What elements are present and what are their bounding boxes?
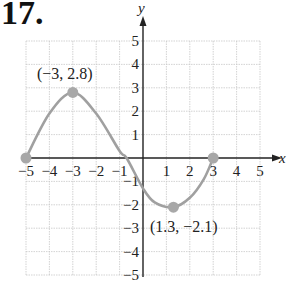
y-tick-label: 3 [132, 80, 140, 96]
marked-point [208, 153, 219, 164]
x-tick-label: −4 [41, 163, 57, 179]
y-tick-label: 4 [132, 56, 140, 72]
annotation-max-point: (−3, 2.8) [37, 65, 93, 83]
marked-point [168, 202, 179, 213]
y-tick-label: 1 [132, 127, 140, 143]
y-tick-label: −5 [123, 267, 139, 283]
y-tick-label: 2 [132, 103, 140, 119]
x-axis-label: x [278, 150, 286, 166]
y-axis-arrow-icon [140, 16, 147, 26]
x-tick-label: 4 [233, 163, 241, 179]
y-tick-label: −4 [123, 244, 139, 260]
y-axis-label: y [136, 0, 145, 16]
y-tick-label: 5 [132, 33, 140, 49]
y-tick-label: −3 [123, 220, 139, 236]
x-tick-label: 2 [186, 163, 194, 179]
x-tick-label: −2 [88, 163, 104, 179]
marked-point [21, 153, 32, 164]
x-tick-label: −5 [18, 163, 34, 179]
x-tick-label: −3 [65, 163, 81, 179]
marked-point [67, 87, 78, 98]
x-tick-label: 1 [163, 163, 171, 179]
function-graph: xy−5−4−3−2−11234554321−1−2−3−4−5(−3, 2.8… [0, 0, 287, 289]
x-tick-label: 5 [256, 163, 264, 179]
annotation-min-point: (1.3, −2.1) [150, 218, 218, 236]
y-tick-label: −2 [123, 197, 139, 213]
